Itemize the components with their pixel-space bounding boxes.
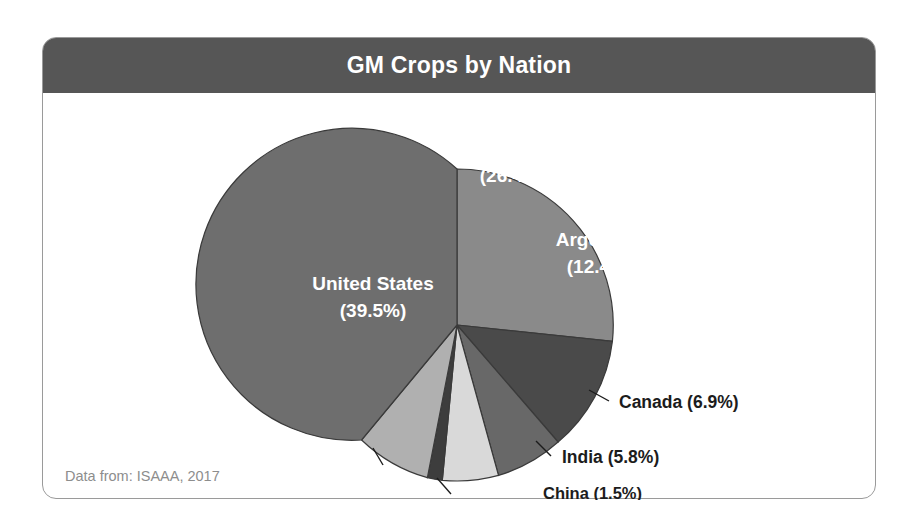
pie-plot-area: Brazil (26.4%) Argentina (12.4%) United … <box>43 93 875 500</box>
pie-label-argentina-value: (12.4%) <box>567 256 634 277</box>
pie-label-brazil-name: Brazil <box>487 138 539 159</box>
chart-card: GM Crops by Nation <box>42 37 876 499</box>
chart-figure: GM Crops by Nation <box>42 37 876 499</box>
pie-label-india: India (5.8%) <box>562 447 659 467</box>
pie-label-brazil-value: (26.4%) <box>480 165 547 186</box>
pie-chart-svg: Brazil (26.4%) Argentina (12.4%) United … <box>43 93 877 500</box>
pie-label-canada: Canada (6.9%) <box>619 392 739 412</box>
pie-label-united-states-value: (39.5%) <box>340 300 407 321</box>
pie-label-united-states-name: United States <box>312 273 433 294</box>
source-note: Data from: ISAAA, 2017 <box>65 468 220 484</box>
chart-title-bar: GM Crops by Nation <box>43 38 875 93</box>
pie-label-china: China (1.5%) <box>543 484 642 500</box>
page-title: GM Crops by Nation <box>347 54 572 77</box>
pie-label-argentina-name: Argentina <box>556 229 645 250</box>
